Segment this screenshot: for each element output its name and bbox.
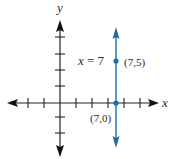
point-label-7-0: (7,0) [90,113,111,124]
coordinate-plane: y x x = 7 (7,5) (7,0) [0,0,170,159]
plot-area [0,0,170,159]
point-label-7-5: (7,5) [124,57,145,68]
x-axis [7,98,159,108]
equation-value: = 7 [84,53,104,68]
x-axis-label: x [162,96,168,109]
equation-label: x = 7 [78,54,104,67]
point-7-0 [113,100,118,105]
y-axis [55,20,65,157]
line-x-equals-7 [113,27,120,148]
y-axis-label: y [57,1,63,14]
point-7-5 [113,58,118,63]
